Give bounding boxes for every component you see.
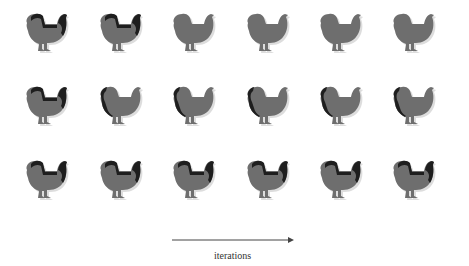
chicken-icon [164, 156, 224, 204]
chicken-image [384, 9, 444, 57]
chicken-image [238, 82, 298, 130]
chicken-icon [311, 156, 371, 204]
chicken-icon [238, 156, 298, 204]
chicken-image [384, 82, 444, 130]
chicken-icon [238, 82, 298, 130]
chicken-image [17, 82, 77, 130]
iterations-label: iterations [214, 250, 251, 261]
chicken-image [91, 9, 151, 57]
chicken-icon [91, 156, 151, 204]
chicken-icon [164, 82, 224, 130]
chicken-image [91, 156, 151, 204]
chicken-icon [311, 9, 371, 57]
chicken-icon [17, 9, 77, 57]
chicken-image [384, 156, 444, 204]
chicken-icon [91, 9, 151, 57]
chicken-image [164, 9, 224, 57]
iterations-arrow-icon [172, 236, 294, 244]
chicken-image [238, 156, 298, 204]
chicken-icon [164, 9, 224, 57]
chicken-icon [17, 156, 77, 204]
chicken-image [17, 9, 77, 57]
chicken-image [238, 9, 298, 57]
axis-label: iterations [0, 250, 469, 261]
chicken-icon [384, 9, 444, 57]
chicken-image [17, 156, 77, 204]
chicken-image [91, 82, 151, 130]
chicken-icon [17, 82, 77, 130]
chicken-image [311, 156, 371, 204]
chicken-icon [311, 82, 371, 130]
chicken-grid [0, 0, 469, 220]
chicken-image [164, 156, 224, 204]
chicken-icon [384, 82, 444, 130]
chicken-image [311, 9, 371, 57]
chicken-image [311, 82, 371, 130]
chicken-icon [238, 9, 298, 57]
chicken-icon [91, 82, 151, 130]
chicken-image [164, 82, 224, 130]
chicken-icon [384, 156, 444, 204]
